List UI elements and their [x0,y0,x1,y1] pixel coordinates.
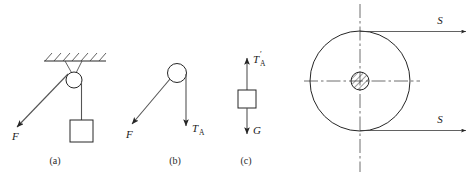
tension-a-subscript-c: A [260,59,266,68]
physics-figure: F (a) F T A (b) [0,0,474,176]
block-c [238,90,256,108]
panel-wheel: S S [304,4,466,172]
tension-ta-prime-label-c: T A ′ [253,50,266,68]
panel-c: T A ′ G (c) [238,50,266,167]
caption-b: (b) [169,155,181,167]
panel-a: F (a) [11,53,106,167]
force-s-label-top: S [437,14,443,26]
ceiling-hatching [45,53,106,61]
caption-a: (a) [49,155,60,167]
force-f-label-a: F [11,130,19,142]
pulley-wheel-a [66,72,82,88]
figure-canvas: F (a) F T A (b) [0,0,474,176]
tension-t-letter-c: T [253,53,260,65]
caption-c: (c) [240,155,251,167]
force-f-label-b: F [125,128,133,140]
tension-t-letter-b: T [192,122,199,134]
block-a [70,120,93,142]
weight-g-label-c: G [253,124,261,136]
pulley-wheel-b [168,64,187,83]
tension-ta-label-b: T A [192,122,205,137]
axle-hub [351,72,369,90]
tension-a-subscript-b: A [199,128,205,137]
force-f-arrow-b [132,79,170,124]
force-s-label-bottom: S [437,113,443,125]
tension-prime-mark-c: ′ [260,50,262,59]
force-f-arrow-a [17,74,68,127]
panel-b: F T A (b) [125,64,205,168]
